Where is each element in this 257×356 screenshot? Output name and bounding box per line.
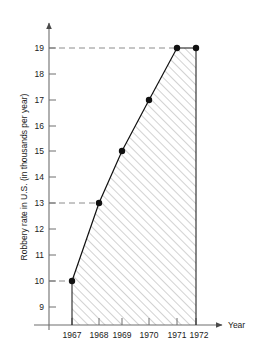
robbery-rate-chart: 19 18 17 16 15 14 13 12 11 10 9 1967 196… (0, 0, 257, 356)
y-tick-label-12: 12 (35, 224, 45, 234)
y-tick-label-16: 16 (35, 121, 45, 131)
x-tick-label-1970: 1970 (140, 330, 159, 340)
x-tick-label-1967: 1967 (63, 330, 82, 340)
data-point-1967 (69, 278, 75, 284)
y-tick-label-19: 19 (35, 43, 45, 53)
y-tick-label-14: 14 (35, 172, 45, 182)
y-axis-title: Robbery rate in U.S. (in thousands per y… (19, 93, 29, 260)
y-tick-label-10: 10 (35, 276, 45, 286)
y-tick-label-17: 17 (35, 95, 45, 105)
y-tick-marks (49, 48, 56, 307)
x-tick-label-1971: 1971 (168, 330, 187, 340)
data-point-1972 (193, 45, 199, 51)
area-fill (72, 48, 196, 325)
x-tick-label-1972: 1972 (190, 330, 209, 340)
y-tick-label-11: 11 (35, 250, 44, 260)
chart-canvas: 19 18 17 16 15 14 13 12 11 10 9 1967 196… (0, 0, 257, 356)
data-point-1971 (174, 45, 180, 51)
data-point-1969 (119, 148, 125, 154)
y-tick-label-15: 15 (35, 146, 45, 156)
y-tick-label-9: 9 (39, 302, 44, 312)
x-axis-title: Year (228, 320, 245, 330)
y-tick-label-13: 13 (35, 198, 45, 208)
x-tick-label-1969: 1969 (113, 330, 132, 340)
x-tick-label-1968: 1968 (90, 330, 109, 340)
data-point-1968 (96, 200, 102, 206)
y-tick-label-18: 18 (35, 69, 45, 79)
data-point-1970 (146, 97, 152, 103)
